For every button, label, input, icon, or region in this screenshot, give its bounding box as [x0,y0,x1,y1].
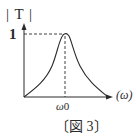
y-tick-label-one: 1 [9,27,17,42]
peak-frequency-label: ω0 [56,101,69,112]
x-axis-label: (ω) [116,89,132,101]
y-axis-label: | T | [6,7,33,22]
omega-symbol: ω [56,100,64,112]
figure-caption: 〔図 3〕 [55,120,108,134]
y-axis-arrow-icon [22,23,27,30]
resonance-curve [24,34,108,97]
omega-subscript: 0 [64,100,70,112]
x-axis-arrow-icon [106,95,113,100]
